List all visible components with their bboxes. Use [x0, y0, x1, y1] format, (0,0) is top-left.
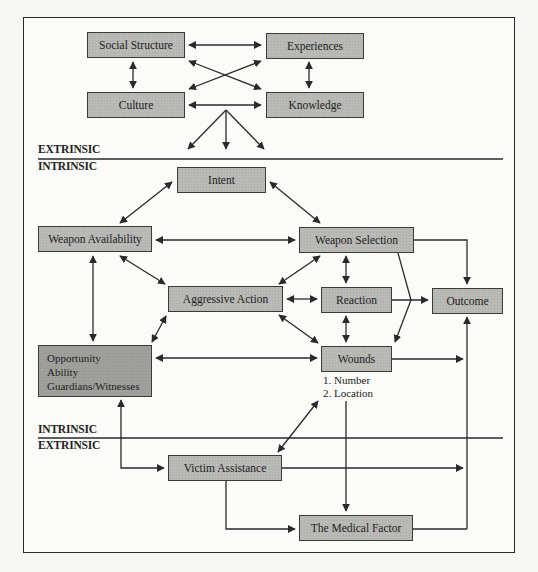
edge-opportunity-victim	[121, 400, 164, 468]
node-victim-assistance: Victim Assistance	[168, 455, 282, 481]
node-intent: Intent	[177, 167, 266, 193]
node-culture: Culture	[87, 92, 185, 118]
edge-ws-outcome	[414, 240, 467, 284]
edge-ws-wounds	[395, 253, 411, 342]
node-experiences: Experiences	[266, 33, 364, 59]
node-weapon-selection: Weapon Selection	[299, 227, 414, 253]
node-weapon-availability: Weapon Availability	[38, 226, 152, 252]
edge-fan-right	[226, 110, 264, 149]
edge-intent-weapon-selection	[270, 182, 320, 223]
edge-wounds-victim	[278, 401, 318, 452]
node-knowledge: Knowledge	[266, 92, 364, 118]
node-social-structure: Social Structure	[87, 32, 185, 58]
edge-victim-medical	[226, 480, 295, 529]
edge-ws-aggressive	[279, 256, 320, 284]
wounds-detail-number: 1. Number	[323, 374, 370, 387]
opportunity-line-3: Guardians/Witnesses	[47, 379, 139, 393]
opportunity-line-1: Opportunity	[47, 351, 101, 365]
edge-intent-weapon-availability	[120, 182, 172, 223]
edge-aggressive-wounds	[279, 315, 318, 343]
edge-fan-left	[188, 110, 226, 149]
node-reaction: Reaction	[321, 287, 392, 313]
label-extrinsic-bottom: EXTRINSIC	[38, 439, 100, 451]
node-medical-factor: The Medical Factor	[299, 515, 413, 541]
wounds-detail-location: 2. Location	[323, 387, 373, 400]
edge-wa-aggressive	[120, 256, 165, 284]
label-intrinsic-bottom: INTRINSIC	[38, 423, 97, 435]
node-opportunity: Opportunity Ability Guardians/Witnesses	[38, 345, 152, 397]
label-extrinsic-top: EXTRINSIC	[38, 143, 100, 155]
node-wounds: Wounds	[321, 346, 392, 372]
edge-aggressive-opportunity	[152, 316, 166, 342]
node-aggressive-action: Aggressive Action	[168, 286, 283, 312]
opportunity-line-2: Ability	[47, 365, 78, 379]
node-outcome: Outcome	[432, 288, 503, 314]
label-intrinsic-top: INTRINSIC	[38, 160, 97, 172]
